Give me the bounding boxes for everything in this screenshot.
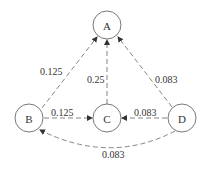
node-c: C	[93, 104, 121, 132]
edge-label-c-a: 0.25	[87, 74, 105, 85]
node-c-label: C	[103, 113, 110, 125]
edge-label-d-a: 0.083	[155, 74, 178, 85]
node-a-label: A	[103, 20, 111, 32]
edge-d-to-b	[40, 130, 175, 148]
edge-d-to-a	[118, 37, 172, 107]
edge-label-d-c: 0.083	[134, 107, 157, 118]
node-a: A	[93, 11, 121, 39]
node-d: D	[168, 104, 196, 132]
edge-label-d-b: 0.083	[102, 149, 125, 160]
node-d-label: D	[178, 113, 186, 125]
edge-label-b-a: 0.125	[40, 66, 63, 77]
graph-diagram: 0.125 0.25 0.083 0.125 0.083 0.083 A B C…	[0, 0, 207, 169]
node-b: B	[15, 104, 43, 132]
edge-label-b-c: 0.125	[51, 107, 74, 118]
node-b-label: B	[25, 113, 32, 125]
